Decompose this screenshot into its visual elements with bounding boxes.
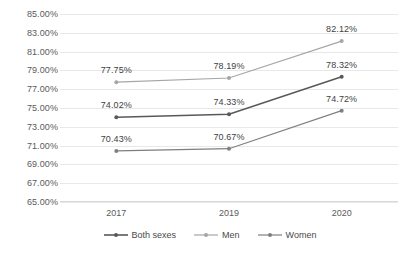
legend-line-marker-icon (258, 230, 282, 240)
legend-label: Men (222, 230, 240, 240)
data-point (114, 115, 118, 119)
data-point-label: 77.75% (101, 65, 132, 75)
data-point-label: 74.02% (101, 100, 132, 110)
data-point-label: 70.43% (101, 134, 132, 144)
y-axis-tick-label: 75.00% (2, 103, 58, 113)
x-axis-line (60, 201, 398, 202)
data-point-label: 70.67% (213, 132, 244, 142)
gridline (60, 202, 398, 203)
legend-label: Both sexes (132, 230, 177, 240)
y-axis-tick-label: 83.00% (2, 28, 58, 38)
data-point-label: 78.32% (326, 60, 357, 70)
data-point-label: 82.12% (326, 24, 357, 34)
plot-area: 74.02%74.33%78.32%77.75%78.19%82.12%70.4… (60, 14, 398, 202)
x-axis-tick-label: 2019 (219, 208, 239, 218)
y-axis-tick-label: 79.00% (2, 65, 58, 75)
data-point (114, 80, 118, 84)
chart-legend: Both sexesMenWomen (0, 230, 420, 240)
data-point-label: 78.19% (213, 61, 244, 71)
y-axis-tick-label: 71.00% (2, 141, 58, 151)
data-point (227, 147, 231, 151)
data-point (340, 75, 344, 79)
y-axis-tick-label: 85.00% (2, 9, 58, 19)
data-point-label: 74.72% (326, 94, 357, 104)
y-axis-tick-label: 73.00% (2, 122, 58, 132)
legend-label: Women (286, 230, 317, 240)
y-axis-tick-label: 65.00% (2, 197, 58, 207)
data-point (340, 109, 344, 113)
x-axis-tick-label: 2020 (332, 208, 352, 218)
data-point-label: 74.33% (213, 97, 244, 107)
data-point (340, 39, 344, 43)
legend-item[interactable]: Men (194, 230, 240, 240)
y-axis-tick-label: 69.00% (2, 159, 58, 169)
line-chart: 85.00%83.00%81.00%79.00%77.00%75.00%73.0… (0, 0, 420, 259)
legend-line-marker-icon (194, 230, 218, 240)
data-point (227, 76, 231, 80)
legend-line-marker-icon (104, 230, 128, 240)
x-axis: 201720192020 (60, 204, 398, 222)
legend-item[interactable]: Both sexes (104, 230, 177, 240)
data-point (227, 112, 231, 116)
x-axis-tick-label: 2017 (106, 208, 126, 218)
data-point (114, 149, 118, 153)
y-axis-tick-label: 67.00% (2, 178, 58, 188)
y-axis-tick-label: 81.00% (2, 47, 58, 57)
y-axis: 85.00%83.00%81.00%79.00%77.00%75.00%73.0… (0, 14, 58, 202)
legend-item[interactable]: Women (258, 230, 317, 240)
y-axis-tick-label: 77.00% (2, 84, 58, 94)
